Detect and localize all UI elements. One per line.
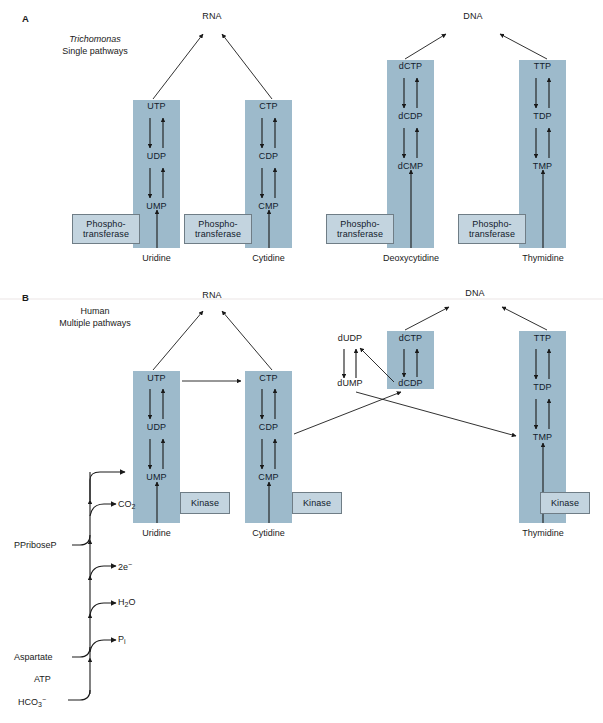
panel-a-base-uridine: Uridine xyxy=(124,253,189,263)
denovo-input-branches xyxy=(68,535,90,700)
panel-a-node-dcmp: dCMP xyxy=(383,161,438,171)
panel-b-node-cdp: CDP xyxy=(245,422,292,432)
panel-b-node-utp: UTP xyxy=(133,373,180,383)
denovo-label-ppribosep: PPriboseP xyxy=(14,540,57,550)
denovo-label-water: H2O xyxy=(118,597,135,608)
panel-b-caption: Human Multiple pathways xyxy=(20,306,170,329)
enzyme-label-line2: transferase xyxy=(469,229,515,239)
panel-b-node-dcdp: dCDP xyxy=(383,378,438,388)
panel-a-rna-target: RNA xyxy=(192,11,232,21)
panel-a-caption-line1: Trichomonas xyxy=(20,34,170,46)
denovo-output-branches xyxy=(90,504,116,652)
panel-b-enzyme-kinase-uridine: Kinase xyxy=(180,492,230,514)
pathway-figure: A Trichomonas Single pathways RNA DNA UT… xyxy=(0,0,603,723)
panel-a-enzyme-phosphotransferase-deoxycytidine: Phospho- transferase xyxy=(326,214,394,244)
panel-a-node-tmp: TMP xyxy=(519,161,566,171)
panelB-rna-edges xyxy=(153,311,272,370)
panel-a-node-ump: UMP xyxy=(133,201,180,211)
panel-b-node-tdp: TDP xyxy=(519,382,566,392)
panelB-dudp-dump-arrows xyxy=(344,349,356,378)
panel-b-node-ctp: CTP xyxy=(245,373,292,383)
panelB-cross-edges xyxy=(182,348,516,436)
denovo-to-ump-edge xyxy=(90,472,125,500)
denovo-label-atp: ATP xyxy=(34,674,51,684)
panel-b-node-dudp: dUDP xyxy=(324,333,376,343)
panel-a-node-dctp: dCTP xyxy=(383,61,438,71)
enzyme-label-line1: Phospho- xyxy=(340,219,379,229)
panel-b-node-udp: UDP xyxy=(133,422,180,432)
panel-b-enzyme-kinase-cytidine: Kinase xyxy=(292,492,342,514)
panel-a-node-tdp: TDP xyxy=(519,111,566,121)
panelA-dna-edges xyxy=(405,34,547,59)
panel-b-enzyme-kinase-thymidine: Kinase xyxy=(540,492,590,514)
enzyme-label-line2: transferase xyxy=(195,229,241,239)
panel-a-enzyme-phosphotransferase-cytidine: Phospho- transferase xyxy=(184,214,252,244)
panel-a-base-cytidine: Cytidine xyxy=(236,253,301,263)
panel-a-node-dcdp: dCDP xyxy=(383,111,438,121)
panel-a-node-udp: UDP xyxy=(133,151,180,161)
pathway-diagram-canvas xyxy=(0,0,603,723)
panel-b-dna-target: DNA xyxy=(455,288,495,298)
panel-a-node-cdp: CDP xyxy=(245,151,292,161)
panel-b-node-cmp: CMP xyxy=(245,472,292,482)
panel-a-node-utp: UTP xyxy=(133,101,180,111)
panel-a-node-cmp: CMP xyxy=(245,201,292,211)
enzyme-label-line2: transferase xyxy=(83,229,129,239)
panel-a-letter: A xyxy=(22,13,29,24)
panel-b-rna-target: RNA xyxy=(192,290,232,300)
panel-b-node-ump: UMP xyxy=(133,472,180,482)
panel-a-node-ttp: TTP xyxy=(519,61,566,71)
panel-a-enzyme-phosphotransferase-uridine: Phospho- transferase xyxy=(72,214,140,244)
panel-b-base-thymidine: Thymidine xyxy=(510,528,576,538)
panel-a-base-deoxycytidine: Deoxycytidine xyxy=(373,253,449,263)
panel-a-base-thymidine: Thymidine xyxy=(510,253,576,263)
panel-b-node-tmp: TMP xyxy=(519,432,566,442)
panel-b-caption-line1: Human xyxy=(20,306,170,318)
panelA-rna-edges xyxy=(153,34,272,99)
denovo-label-co2: CO2 xyxy=(118,499,135,510)
panel-b-node-dctp: dCTP xyxy=(383,333,438,343)
panel-a-caption: Trichomonas Single pathways xyxy=(20,34,170,57)
denovo-label-aspartate: Aspartate xyxy=(14,652,53,662)
panel-b-letter: B xyxy=(22,292,29,303)
panel-b-base-uridine: Uridine xyxy=(124,528,189,538)
denovo-label-bicarbonate: HCO3− xyxy=(18,696,46,708)
enzyme-label-line1: Phospho- xyxy=(472,219,511,229)
panel-b-node-dump: dUMP xyxy=(324,378,376,388)
denovo-label-phosphate: Pi xyxy=(118,634,126,645)
panelB-dna-edges xyxy=(405,307,547,330)
enzyme-label-line1: Phospho- xyxy=(198,219,237,229)
panel-a-node-ctp: CTP xyxy=(245,101,292,111)
panel-b-base-cytidine: Cytidine xyxy=(236,528,301,538)
denovo-label-electrons: 2e− xyxy=(118,561,132,572)
panel-a-caption-line2: Single pathways xyxy=(20,46,170,58)
panel-b-caption-line2: Multiple pathways xyxy=(20,318,170,330)
panel-b-node-ttp: TTP xyxy=(519,333,566,343)
enzyme-label-line2: transferase xyxy=(337,229,383,239)
enzyme-label-line1: Phospho- xyxy=(86,219,125,229)
panel-a-enzyme-phosphotransferase-thymidine: Phospho- transferase xyxy=(458,214,526,244)
panel-a-dna-target: DNA xyxy=(453,11,493,21)
